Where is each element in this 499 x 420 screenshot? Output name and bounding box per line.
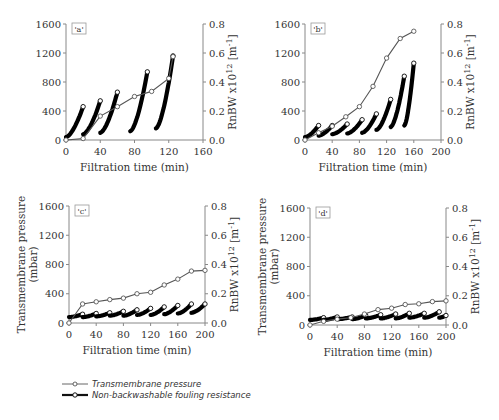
x-axis-label: Filtration time (min) [319,161,428,173]
x-tick-label: 120 [159,146,178,157]
tmp-point [357,104,361,108]
y2-tick-label: 0.2 [211,288,227,299]
x-tick-label: 160 [168,329,187,340]
y-tick-label: 1200 [280,232,305,243]
y-tick-label: 1200 [275,48,300,59]
y-tick-label: 400 [42,106,61,117]
y-tick-label: 1200 [36,48,61,59]
y2-tick-label: 0.8 [452,203,468,214]
tmp-point [167,76,171,80]
tmp-point [403,302,407,306]
y2-tick-label: 0.0 [211,318,227,329]
x-tick-label: 80 [128,146,141,157]
x-axis-label: Filtration time (min) [324,346,433,358]
y-tick-label: 400 [286,290,305,301]
tmp-point [80,302,84,306]
tmp-point [303,138,307,142]
y-tick-label: 0 [55,135,61,146]
y2-tick-label: 0.0 [447,135,463,146]
fouling-cycle [83,101,100,134]
y-tick-label: 1600 [39,201,64,212]
y-tick-label: 800 [45,259,64,270]
y-tick-label: 800 [42,77,61,88]
legend-item-fouling: Non-backwashable fouling resistance [62,389,251,400]
tmp-point [135,292,139,296]
y2-tick-label: 0.4 [452,261,468,272]
x-tick-label: 80 [353,146,366,157]
y-axis-unit: (mbar) [27,246,39,282]
legend-label: Non-backwashable fouling resistance [92,390,251,400]
tmp-point [171,54,175,58]
chart-panel-c: 0400800120016000.00.20.40.60.80408012016… [15,196,240,356]
y2-tick-label: 0.0 [452,320,468,331]
x-tick-label: 0 [307,331,313,342]
x-tick-label: 160 [193,146,212,157]
panel-label: 'a' [74,25,83,34]
tmp-point [162,283,166,287]
panel-label: 'd' [318,209,328,218]
panel-label: 'c' [78,207,87,216]
tmp-point [349,315,353,319]
x-tick-label: 40 [94,146,107,157]
legend-item-tmp: Transmembrane pressure [62,378,251,389]
tmp-point [132,94,136,98]
y2-tick-label: 0.6 [447,48,463,59]
fouling-cycle [156,56,173,128]
tmp-point [176,277,180,281]
x-tick-label: 40 [90,329,103,340]
tmp-point [430,299,434,303]
y2-tick-label: 0.6 [452,232,468,243]
y2-tick-label: 0.2 [209,106,225,117]
thin-line-circle-icon [62,380,88,388]
y2-tick-label: 0.8 [211,201,227,212]
x-tick-label: 200 [431,146,450,157]
y2-tick-label: 0.8 [447,19,463,30]
fouling-cycle [347,120,362,134]
y2-axis-label: RnBW x1012 [m-1] [227,217,240,312]
y-tick-label: 0 [58,318,64,329]
tmp-point [121,296,125,300]
tmp-point [148,290,152,294]
tmp-point [335,317,339,321]
y2-tick-label: 0.4 [447,77,463,88]
thick-line-circle-icon [62,391,88,399]
y2-tick-label: 0.0 [209,135,225,146]
fouling-cycle [66,107,83,137]
x-tick-label: 40 [326,146,339,157]
tmp-point [371,84,375,88]
y2-axis-label: RnBW x1012 [m-1] [225,34,238,129]
y2-tick-label: 0.4 [211,259,227,270]
tmp-point [362,312,366,316]
chart-panel-d: 0400800120016000.00.20.40.60.80408012016… [256,198,481,358]
tmp-point [398,36,402,40]
x-tick-label: 40 [331,331,344,342]
panel-label: 'b' [313,25,323,34]
y2-tick-label: 0.2 [447,106,463,117]
fouling-cycle [100,92,117,133]
x-tick-label: 160 [409,331,428,342]
fouling-cycle [130,72,147,131]
tmp-point [344,115,348,119]
tmp-point [64,138,68,142]
fouling-cycle [362,114,376,133]
x-tick-label: 80 [358,331,371,342]
tmp-point [115,104,119,108]
tmp-point [81,136,85,140]
y-tick-label: 1600 [36,19,61,30]
tmp-point [316,131,320,135]
y-tick-label: 1600 [275,19,300,30]
chart-panel-a: 0400800120016000.00.20.40.60.80408012016… [36,19,238,174]
tmp-point [321,319,325,323]
tmp-point [417,302,421,306]
x-tick-label: 120 [382,331,401,342]
fouling-cycle [391,76,405,127]
tmp-point [149,89,153,93]
y-tick-label: 400 [45,288,64,299]
y2-axis-label: RnBW x1012 [m-1] [468,219,481,314]
tmp-point [330,124,334,128]
x-axis-label: Filtration time (min) [83,344,192,356]
x-tick-label: 160 [404,146,423,157]
y-axis-label: Transmembrane pressure [256,198,268,336]
tmp-point [444,299,448,303]
tmp-point [376,307,380,311]
